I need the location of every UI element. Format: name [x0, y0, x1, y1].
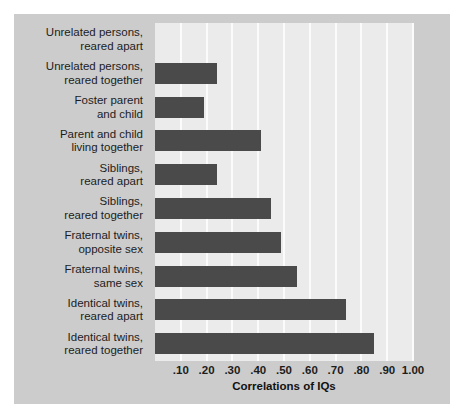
chart-panel: Unrelated persons,reared apartUnrelated …	[14, 14, 450, 404]
x-tick-label: .20	[199, 364, 215, 376]
bar-row	[155, 23, 413, 57]
category-label: Identical twins,reared together	[14, 331, 143, 358]
category-label-line: Foster parent	[14, 94, 143, 108]
bar-row	[155, 124, 413, 158]
x-tick-label: .40	[250, 364, 266, 376]
bar[interactable]	[155, 333, 374, 354]
category-label-line: reared together	[14, 74, 143, 88]
bar-row	[155, 226, 413, 260]
category-label-line: Unrelated persons,	[14, 60, 143, 74]
x-tick-label: .80	[353, 364, 369, 376]
x-tick-label: 1.00	[402, 364, 424, 376]
x-tick-label: .90	[379, 364, 395, 376]
category-label: Parent and childliving together	[14, 128, 143, 155]
x-tick-label: .30	[224, 364, 240, 376]
category-label: Siblings,reared apart	[14, 162, 143, 189]
bar[interactable]	[155, 299, 346, 320]
x-tick-label: .60	[302, 364, 318, 376]
bar[interactable]	[155, 63, 217, 84]
bar[interactable]	[155, 198, 271, 219]
bar[interactable]	[155, 232, 281, 253]
category-label-line: opposite sex	[14, 243, 143, 257]
x-axis-tick-labels: .10.20.30.40.50.60.70.80.901.00	[155, 364, 413, 380]
category-label-line: and child	[14, 108, 143, 122]
category-axis-labels: Unrelated persons,reared apartUnrelated …	[14, 23, 151, 361]
bar-row	[155, 57, 413, 91]
bar-series	[155, 23, 413, 361]
bar[interactable]	[155, 164, 217, 185]
bar[interactable]	[155, 130, 261, 151]
bar-row	[155, 192, 413, 226]
bar-row	[155, 260, 413, 294]
category-label: Unrelated persons,reared apart	[14, 26, 143, 53]
plot-area	[155, 23, 413, 361]
bar-row	[155, 91, 413, 125]
bar-row	[155, 158, 413, 192]
bar-row	[155, 327, 413, 361]
x-tick-label: .50	[276, 364, 292, 376]
category-label: Fraternal twins,opposite sex	[14, 229, 143, 256]
category-label: Foster parentand child	[14, 94, 143, 121]
category-label-line: Identical twins,	[14, 297, 143, 311]
bar[interactable]	[155, 266, 297, 287]
category-label-line: living together	[14, 141, 143, 155]
category-label-line: reared apart	[14, 175, 143, 189]
category-label-line: Fraternal twins,	[14, 263, 143, 277]
category-label-line: reared together	[14, 209, 143, 223]
category-label-line: reared apart	[14, 310, 143, 324]
category-label-line: reared together	[14, 344, 143, 358]
x-tick-label: .10	[173, 364, 189, 376]
category-label: Unrelated persons,reared together	[14, 60, 143, 87]
category-label-line: Unrelated persons,	[14, 26, 143, 40]
bar[interactable]	[155, 97, 204, 118]
chart-page: Unrelated persons,reared apartUnrelated …	[0, 0, 464, 418]
category-label: Identical twins,reared apart	[14, 297, 143, 324]
category-label-line: Identical twins,	[14, 331, 143, 345]
category-label-line: Siblings,	[14, 162, 143, 176]
category-label-line: Fraternal twins,	[14, 229, 143, 243]
x-tick-label: .70	[328, 364, 344, 376]
category-label: Siblings,reared together	[14, 195, 143, 222]
category-label: Fraternal twins,same sex	[14, 263, 143, 290]
x-axis-title: Correlations of IQs	[155, 380, 413, 392]
category-label-line: Siblings,	[14, 195, 143, 209]
category-label-line: reared apart	[14, 40, 143, 54]
category-label-line: Parent and child	[14, 128, 143, 142]
bar-row	[155, 293, 413, 327]
category-label-line: same sex	[14, 277, 143, 291]
